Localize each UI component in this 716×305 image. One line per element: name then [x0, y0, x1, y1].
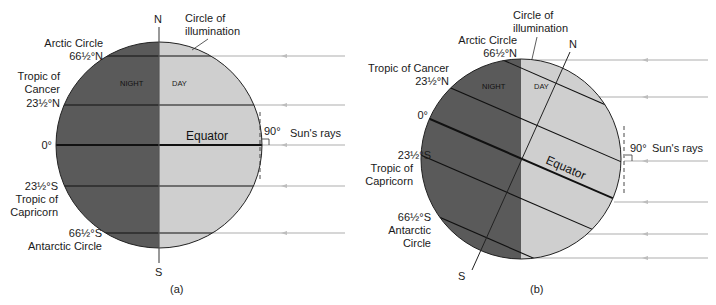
- antarctic-label-b-2: Circle: [403, 237, 431, 249]
- antarctic-lat-a: 66½°S: [69, 227, 102, 239]
- panel-a: N S Circle of illumination NIGHT DAY Equ…: [10, 12, 345, 295]
- tropic-capricorn-label-a-2: Capricorn: [10, 206, 58, 218]
- illumination-leader-a: [192, 39, 208, 50]
- tropic-cancer-lat-b: 23½°N: [415, 75, 449, 87]
- circle-illumination-label-b-2: illumination: [513, 22, 568, 34]
- north-label-b: N: [569, 38, 577, 50]
- tropic-capricorn-lat-a: 23½°S: [25, 180, 58, 192]
- angle-label-a: 90°: [264, 125, 281, 137]
- antarctic-circle-label-a: Antarctic Circle: [28, 240, 102, 252]
- arctic-circle-label-a: Arctic Circle: [44, 37, 103, 49]
- illumination-leader-b: [532, 37, 537, 59]
- arctic-lat-label-a: 66½°N: [69, 50, 103, 62]
- angle-label-b: 90°: [630, 142, 647, 154]
- zero-degree-label-a: 0°: [41, 139, 52, 151]
- antarctic-label-b-1: Antarctic: [388, 224, 431, 236]
- caption-b: (b): [530, 283, 543, 295]
- caption-a: (a): [170, 283, 183, 295]
- sun-rays-label-b: Sun's rays: [652, 142, 704, 154]
- tropic-capricorn-label-b-1: Tropic of: [371, 162, 414, 174]
- night-label-b: NIGHT: [482, 82, 506, 91]
- equator-label-a: Equator: [186, 129, 228, 143]
- zero-degree-label-b: 0°: [417, 109, 428, 121]
- day-label-a: DAY: [172, 79, 187, 88]
- ray-arrowheads-b: [642, 58, 648, 260]
- sun-rays-label-a: Sun's rays: [290, 127, 342, 139]
- arctic-circle-label-b: Arctic Circle: [458, 34, 517, 46]
- arctic-lat-label-b: 66½°N: [483, 47, 517, 59]
- antarctic-lat-b: 66½°S: [398, 211, 431, 223]
- tropic-capricorn-lat-b: 23½°S: [398, 149, 431, 161]
- south-label-b: S: [458, 270, 465, 282]
- day-label-b: DAY: [534, 82, 549, 91]
- earth-illumination-diagram: N S Circle of illumination NIGHT DAY Equ…: [0, 0, 716, 305]
- north-label-a: N: [154, 13, 162, 25]
- tropic-capricorn-label-b-2: Capricorn: [365, 175, 413, 187]
- circle-illumination-label-a-2: illumination: [185, 25, 240, 37]
- tropic-capricorn-label-a-1: Tropic of: [16, 193, 59, 205]
- tropic-cancer-label-b: Tropic of Cancer: [368, 62, 449, 74]
- night-label-a: NIGHT: [120, 79, 144, 88]
- globe-a: [50, 38, 270, 253]
- panel-b: N S Circle of illumination NIGHT DAY Equ…: [365, 9, 708, 295]
- right-angle-marker-b: [625, 155, 632, 161]
- tropic-cancer-label-a-1: Tropic of: [18, 70, 61, 82]
- circle-illumination-label-a-1: Circle of: [185, 12, 226, 24]
- tropic-cancer-lat-a: 23½°N: [26, 97, 60, 109]
- tropic-cancer-label-a-2: Cancer: [25, 83, 61, 95]
- circle-illumination-label-b-1: Circle of: [513, 9, 554, 21]
- right-angle-marker-a: [262, 139, 269, 145]
- south-label-a: S: [155, 266, 162, 278]
